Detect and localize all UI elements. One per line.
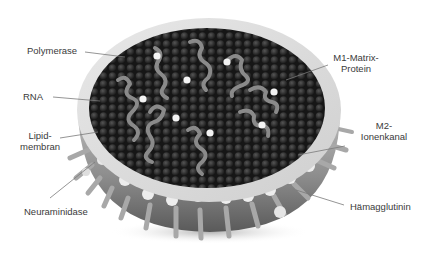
influenza-virus-diagram: Polymerase RNA Lipid- membran Neuraminid… xyxy=(0,0,423,259)
label-m1-line1: M1-Matrix- xyxy=(326,52,386,63)
label-hemagglutinin: Hämagglutinin xyxy=(350,201,411,212)
label-m1-matrix-protein: M1-Matrix- Protein xyxy=(326,52,386,74)
matrix-protein-layer xyxy=(89,28,325,188)
label-m2-line1: M2- xyxy=(354,120,414,131)
label-polymerase: Polymerase xyxy=(27,45,77,56)
label-m1-line2: Protein xyxy=(326,63,386,74)
label-neuraminidase: Neuraminidase xyxy=(24,206,88,217)
label-lipid-membrane: Lipid- membran xyxy=(20,130,60,152)
label-m2-line2: Ionenkanal xyxy=(354,131,414,142)
label-lipid-line1: Lipid- xyxy=(20,130,60,141)
label-lipid-line2: membran xyxy=(20,141,60,152)
label-m2-ion-channel: M2- Ionenkanal xyxy=(354,120,414,142)
label-rna: RNA xyxy=(23,91,43,102)
